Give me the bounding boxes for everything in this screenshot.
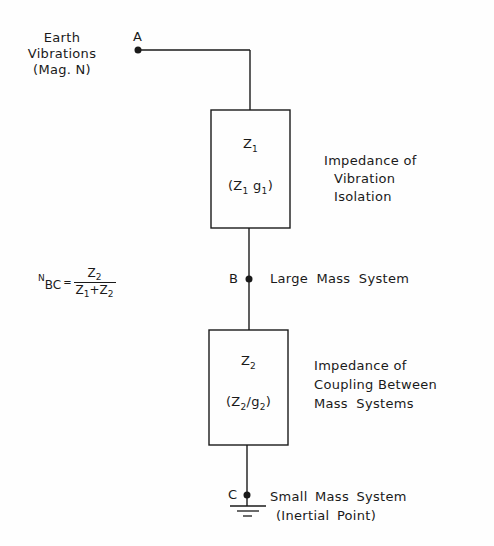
desc-line: Impedance of bbox=[324, 152, 417, 170]
denominator: Z1+Z2 bbox=[74, 283, 116, 299]
param-text: (Z bbox=[226, 394, 241, 409]
transmissibility-formula: NBC = Z2 Z1+Z2 bbox=[38, 266, 116, 300]
desc-line: Isolation bbox=[324, 188, 417, 206]
plus-sign: + bbox=[90, 283, 100, 297]
num-z: Z bbox=[88, 266, 96, 280]
label-line: (Mag. N) bbox=[16, 62, 108, 78]
subscript: 2 bbox=[96, 272, 102, 282]
small-mass-system-label: Small Mass System (Inertial Point) bbox=[270, 487, 407, 525]
z1-symbol: Z1 bbox=[211, 136, 290, 157]
den-z: Z bbox=[100, 283, 108, 297]
param-text: ) bbox=[268, 178, 273, 193]
label-line: Small Mass System bbox=[270, 487, 407, 506]
label-line: (Inertial Point) bbox=[276, 506, 407, 525]
desc-line: Mass Systems bbox=[314, 394, 437, 413]
z2-parameter: (Z2/g2) bbox=[209, 394, 288, 415]
equals-sign: = bbox=[63, 277, 71, 288]
large-mass-system-label: Large Mass System bbox=[270, 271, 409, 287]
subscript: 2 bbox=[108, 290, 114, 300]
param-text: ) bbox=[266, 394, 271, 409]
param-text: /g bbox=[246, 394, 259, 409]
vibration-isolation-description: Impedance of Vibration Isolation bbox=[324, 152, 417, 206]
lhs-bc: BC bbox=[45, 278, 61, 292]
coupling-description: Impedance of Coupling Between Mass Syste… bbox=[314, 356, 437, 413]
desc-line: Vibration bbox=[324, 170, 417, 188]
z1-parameter: (Z1 g1) bbox=[211, 178, 290, 199]
label-line: Earth bbox=[16, 30, 108, 46]
node-b-label: B bbox=[229, 271, 238, 286]
node-c-dot bbox=[244, 492, 251, 499]
formula-fraction: Z2 Z1+Z2 bbox=[74, 266, 116, 300]
ground-symbol-icon bbox=[222, 500, 272, 522]
label-line: Vibrations bbox=[16, 46, 108, 62]
den-z: Z bbox=[76, 283, 84, 297]
subscript: 1 bbox=[252, 144, 258, 154]
param-text: (Z bbox=[228, 178, 243, 193]
lhs-n: N bbox=[38, 273, 45, 283]
z-letter: Z bbox=[243, 136, 252, 151]
node-a-dot bbox=[135, 47, 142, 54]
desc-line: Impedance of bbox=[314, 356, 437, 375]
formula-lhs: NBC bbox=[38, 276, 61, 290]
desc-line: Coupling Between bbox=[314, 375, 437, 394]
numerator: Z2 bbox=[74, 266, 116, 283]
subscript: 2 bbox=[250, 361, 256, 371]
param-text: g bbox=[249, 178, 262, 193]
z2-symbol: Z2 bbox=[209, 353, 288, 374]
z-letter: Z bbox=[241, 353, 250, 368]
earth-vibrations-label: Earth Vibrations (Mag. N) bbox=[16, 30, 108, 78]
node-a-label: A bbox=[133, 29, 142, 44]
node-b-dot bbox=[246, 276, 253, 283]
